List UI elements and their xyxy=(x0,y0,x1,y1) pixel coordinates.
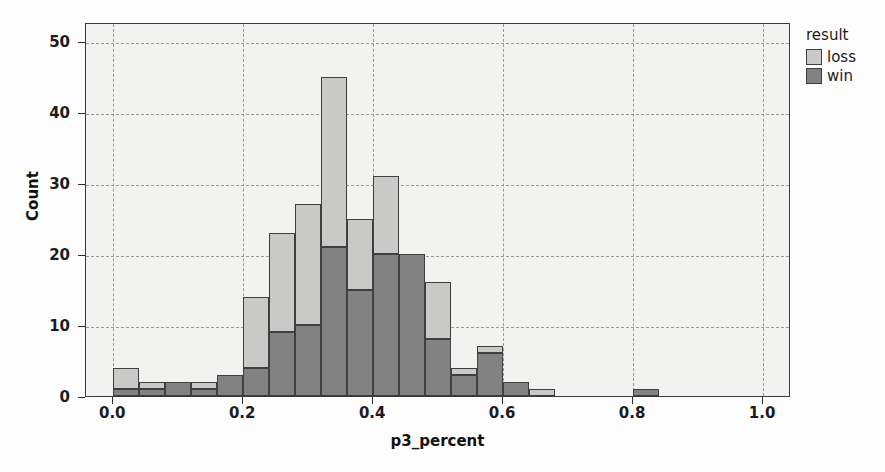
bar-segment-loss xyxy=(477,346,503,353)
histogram-bar xyxy=(243,297,269,396)
legend-label: win xyxy=(827,69,853,84)
y-tick-label: 10 xyxy=(26,319,70,334)
gridline-vertical xyxy=(763,24,764,396)
x-tick-label: 0.8 xyxy=(602,406,662,421)
bar-segment-win xyxy=(165,382,191,396)
bar-segment-win xyxy=(139,389,165,396)
legend-label: loss xyxy=(827,50,856,65)
bar-segment-loss xyxy=(347,219,373,290)
legend-item-loss: loss xyxy=(806,49,881,65)
x-tick-mark xyxy=(502,397,503,404)
bar-segment-loss xyxy=(113,368,139,389)
y-tick-mark xyxy=(78,397,85,398)
gridline-vertical xyxy=(633,24,634,396)
bar-segment-loss xyxy=(243,297,269,368)
bar-segment-win xyxy=(217,375,243,396)
bar-segment-win xyxy=(243,368,269,396)
x-tick-label: 0.2 xyxy=(212,406,272,421)
plot-area xyxy=(85,23,790,397)
histogram-bar xyxy=(113,368,139,396)
x-tick-mark xyxy=(372,397,373,404)
histogram-bar xyxy=(321,77,347,396)
bar-segment-win xyxy=(191,389,217,396)
bar-segment-loss xyxy=(269,233,295,332)
bar-segment-loss xyxy=(425,282,451,339)
x-tick-mark xyxy=(762,397,763,404)
x-tick-label: 0.0 xyxy=(82,406,142,421)
histogram-bar xyxy=(399,254,425,396)
legend-swatch-loss xyxy=(806,49,822,65)
x-tick-mark xyxy=(242,397,243,404)
bar-segment-win xyxy=(347,290,373,396)
bar-segment-loss xyxy=(451,368,477,375)
histogram-bar xyxy=(165,382,191,396)
bar-segment-win xyxy=(399,254,425,396)
bar-segment-win xyxy=(321,247,347,396)
y-tick-mark xyxy=(78,326,85,327)
bar-segment-win xyxy=(373,254,399,396)
x-axis-title: p3_percent xyxy=(85,432,790,450)
gridline-horizontal xyxy=(86,43,789,44)
bar-segment-win xyxy=(295,325,321,396)
bar-segment-win xyxy=(503,382,529,396)
bar-segment-win xyxy=(633,389,659,396)
bar-segment-loss xyxy=(321,77,347,247)
histogram-bar xyxy=(451,368,477,396)
histogram-bar xyxy=(529,389,555,396)
bar-segment-win xyxy=(451,375,477,396)
x-tick-label: 0.4 xyxy=(342,406,402,421)
histogram-bar xyxy=(217,375,243,396)
legend-item-win: win xyxy=(806,68,881,84)
y-tick-label: 0 xyxy=(26,390,70,405)
histogram-bar xyxy=(191,382,217,396)
bar-segment-loss xyxy=(139,382,165,389)
chart-figure: Count 01020304050 0.00.20.40.60.81.0 p3_… xyxy=(0,0,885,472)
legend-title: result xyxy=(806,28,881,43)
bar-segment-loss xyxy=(295,204,321,325)
y-tick-label: 20 xyxy=(26,248,70,263)
bar-segment-loss xyxy=(373,176,399,254)
histogram-bar xyxy=(295,204,321,396)
y-tick-mark xyxy=(78,255,85,256)
x-tick-label: 1.0 xyxy=(732,406,792,421)
histogram-bar xyxy=(373,176,399,396)
y-tick-mark xyxy=(78,42,85,43)
y-tick-mark xyxy=(78,184,85,185)
y-tick-mark xyxy=(78,113,85,114)
y-tick-label: 50 xyxy=(26,35,70,50)
histogram-bar xyxy=(269,233,295,396)
x-tick-mark xyxy=(112,397,113,404)
y-tick-label: 40 xyxy=(26,106,70,121)
gridline-horizontal xyxy=(86,256,789,257)
gridline-vertical xyxy=(113,24,114,396)
legend-entries: losswin xyxy=(806,49,881,84)
bar-segment-win xyxy=(477,353,503,396)
bar-segment-loss xyxy=(529,389,555,396)
histogram-bar xyxy=(347,219,373,396)
bar-segment-win xyxy=(269,332,295,396)
legend: result losswin xyxy=(806,28,881,87)
histogram-bar xyxy=(425,282,451,396)
legend-swatch-win xyxy=(806,68,822,84)
y-tick-label: 30 xyxy=(26,177,70,192)
histogram-bar xyxy=(633,389,659,396)
bar-segment-win xyxy=(425,339,451,396)
bar-segment-win xyxy=(113,389,139,396)
gridline-horizontal xyxy=(86,185,789,186)
histogram-bar xyxy=(477,346,503,396)
bar-segment-loss xyxy=(191,382,217,389)
histogram-bar xyxy=(139,382,165,396)
gridline-horizontal xyxy=(86,114,789,115)
x-tick-mark xyxy=(632,397,633,404)
plot-inner xyxy=(86,24,789,396)
x-tick-label: 0.6 xyxy=(472,406,532,421)
histogram-bar xyxy=(503,382,529,396)
gridline-vertical xyxy=(503,24,504,396)
